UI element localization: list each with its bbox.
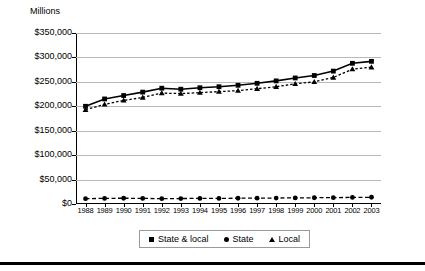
circle-marker — [121, 196, 126, 201]
x-axis-tick-mark — [238, 204, 239, 207]
y-axis-tick-label: $0 — [62, 198, 72, 208]
circle-marker — [255, 196, 260, 201]
legend-item-label: State — [233, 234, 254, 244]
circle-marker — [83, 196, 88, 201]
plot-area — [76, 33, 381, 204]
triangle-marker — [235, 88, 241, 93]
y-axis-tick-label: $50,000 — [39, 174, 72, 184]
triangle-marker — [350, 66, 356, 71]
series-line — [86, 67, 372, 110]
y-axis-unit-label: Millions — [30, 6, 60, 16]
circle-marker — [312, 195, 317, 200]
y-axis-tick-label: $150,000 — [34, 125, 72, 135]
circle-marker — [293, 195, 298, 200]
square-marker — [331, 69, 336, 74]
x-axis-tick-mark — [105, 204, 106, 207]
x-axis-tick-label: 1992 — [154, 206, 170, 215]
x-axis-tick-label: 1994 — [192, 206, 208, 215]
x-axis-tick-mark — [219, 204, 220, 207]
square-marker — [350, 61, 355, 66]
x-axis-tick-label: 1988 — [78, 206, 94, 215]
x-axis-tick-label: 1989 — [97, 206, 113, 215]
square-marker — [121, 93, 126, 98]
square-marker — [369, 59, 374, 64]
circle-marker — [140, 196, 145, 201]
circle-marker — [369, 195, 374, 200]
series-state — [83, 195, 374, 201]
legend-item-label: Local — [279, 234, 301, 244]
x-axis-tick-mark — [314, 204, 315, 207]
square-marker — [102, 97, 107, 102]
x-axis-tick-label: 2003 — [364, 206, 380, 215]
chart-series-svg — [76, 33, 381, 204]
triangle-marker — [311, 79, 317, 84]
x-axis-tick-label: 1997 — [249, 206, 265, 215]
triangle-marker — [159, 90, 165, 95]
circle-marker — [217, 196, 222, 201]
square-marker — [255, 81, 260, 86]
x-axis-tick-mark — [143, 204, 144, 207]
y-axis-tick-label: $300,000 — [34, 51, 72, 61]
bottom-divider-rule — [0, 262, 425, 265]
legend-item: State — [224, 234, 254, 244]
triangle-marker — [292, 81, 298, 86]
x-axis-tick-label: 1990 — [116, 206, 132, 215]
square-marker — [312, 73, 317, 78]
x-axis-tick-mark — [124, 204, 125, 207]
x-axis-tick-mark — [86, 204, 87, 207]
x-axis-tick-label: 1999 — [287, 206, 303, 215]
y-axis-tick-label: $200,000 — [34, 100, 72, 110]
x-axis-tick-label: 2002 — [344, 206, 360, 215]
x-axis-tick-mark — [333, 204, 334, 207]
circle-marker — [198, 196, 203, 201]
chart-figure: Millions $350,000$300,000$250,000$200,00… — [0, 0, 425, 271]
y-axis-tick-label: $350,000 — [34, 27, 72, 37]
x-axis-tick-mark — [276, 204, 277, 207]
square-marker — [149, 237, 154, 242]
circle-marker — [236, 196, 241, 201]
triangle-marker — [102, 101, 108, 106]
square-marker — [236, 83, 241, 88]
x-axis-tick-mark — [295, 204, 296, 207]
x-axis-tick-label: 2001 — [325, 206, 341, 215]
x-axis-tick-label: 1996 — [230, 206, 246, 215]
square-marker — [140, 90, 145, 95]
x-axis-tick-label: 1993 — [173, 206, 189, 215]
square-marker — [274, 78, 279, 83]
chart-legend: State & localStateLocal — [139, 230, 310, 248]
x-axis-tick-label: 2000 — [306, 206, 322, 215]
square-marker — [198, 85, 203, 90]
x-axis-tick-mark — [181, 204, 182, 207]
legend-item: State & local — [149, 234, 209, 244]
x-axis-tick-mark — [257, 204, 258, 207]
square-marker — [159, 86, 164, 91]
x-axis-tick-mark — [352, 204, 353, 207]
x-axis-tick-mark — [162, 204, 163, 207]
circle-marker — [350, 195, 355, 200]
x-axis-tick-label: 1998 — [268, 206, 284, 215]
circle-marker — [159, 196, 164, 201]
series-state-local — [83, 59, 374, 109]
x-axis-tick-mark — [371, 204, 372, 207]
legend-item-label: State & local — [158, 234, 209, 244]
triangle-marker — [269, 237, 275, 242]
x-axis-tick-labels: 1988198919901991199219931994199519961997… — [76, 204, 381, 220]
legend-item: Local — [269, 234, 301, 244]
circle-marker — [331, 195, 336, 200]
x-axis-tick-mark — [200, 204, 201, 207]
x-axis-tick-label: 1991 — [135, 206, 151, 215]
y-axis-tick-labels: $350,000$300,000$250,000$200,000$150,000… — [0, 33, 76, 204]
square-marker — [293, 76, 298, 81]
circle-marker — [274, 196, 279, 201]
square-marker — [217, 84, 222, 89]
x-axis-tick-label: 1995 — [211, 206, 227, 215]
circle-marker — [102, 196, 107, 201]
y-axis-tick-label: $100,000 — [34, 149, 72, 159]
y-axis-tick-label: $250,000 — [34, 76, 72, 86]
circle-marker — [178, 196, 183, 201]
series-line — [86, 61, 372, 106]
series-line — [86, 197, 372, 198]
circle-marker — [224, 237, 229, 242]
